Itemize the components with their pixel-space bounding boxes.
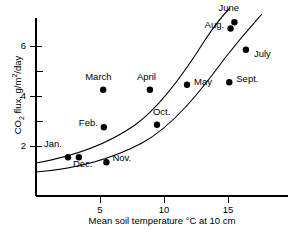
point-label-nov: Nov.: [112, 152, 131, 163]
point-label-sept: Sept.: [236, 73, 258, 84]
data-points-group: [65, 19, 249, 165]
x-tick-label-10: 10: [159, 204, 170, 215]
lower-fit-curve: [36, 14, 262, 172]
point-label-june: June: [218, 2, 239, 13]
data-point-oct: [154, 122, 160, 128]
point-label-july: July: [254, 48, 271, 59]
x-tick-label-15: 15: [223, 204, 234, 215]
point-label-dec: Dec.: [73, 158, 93, 169]
data-point-nov: [103, 159, 109, 165]
point-label-feb: Feb.: [79, 117, 98, 128]
data-point-march: [100, 87, 106, 93]
co2-flux-scatter-chart: 6 4 2 5 10 15 CO2 flux, g/m2/day Mean so…: [0, 0, 295, 237]
data-point-june: [231, 19, 237, 25]
point-label-march: March: [85, 71, 111, 82]
y-axis-title: CO2 flux, g/m2/day: [11, 30, 25, 160]
data-point-aug: [227, 25, 233, 31]
data-point-sept: [226, 79, 232, 85]
point-label-jan: Jan.: [44, 138, 62, 149]
data-point-feb: [101, 124, 107, 130]
x-axis-title: Mean soil temperature °C at 10 cm: [36, 215, 288, 226]
point-label-april: April: [137, 71, 156, 82]
point-label-aug: Aug.: [205, 19, 225, 30]
data-point-april: [147, 87, 153, 93]
point-label-oct: Oct.: [153, 106, 170, 117]
plot-area: 6 4 2 5 10 15: [0, 0, 295, 237]
point-label-may: May: [194, 76, 212, 87]
data-point-jan: [65, 154, 71, 160]
x-tick-label-5: 5: [97, 204, 102, 215]
data-point-july: [243, 47, 249, 53]
data-point-may: [184, 82, 190, 88]
